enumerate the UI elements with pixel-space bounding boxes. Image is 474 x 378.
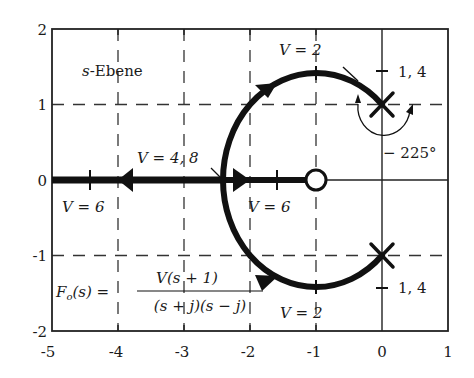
svg-text:0: 0	[37, 172, 47, 190]
upper-gain-label: V = 2	[279, 41, 321, 59]
angle-arrow-end-icon	[406, 104, 413, 115]
svg-text:-2: -2	[32, 323, 47, 341]
svg-text:1: 1	[37, 96, 47, 114]
svg-text:-1: -1	[32, 247, 47, 265]
breakaway-label: V = 4, 8	[137, 149, 199, 167]
transfer-function: Fo(s) = V(s + 1) (s + j)(s − j)	[55, 269, 263, 315]
x-tick-labels: -5 -4 -3 -2 -1 0 1	[41, 343, 453, 361]
departure-angle-label: − 225°	[383, 144, 436, 162]
svg-text:-4: -4	[109, 343, 124, 361]
tf-numerator: V(s + 1)	[156, 269, 218, 287]
locus-lower-branch	[223, 180, 382, 287]
tf-denominator: (s + j)(s − j)	[154, 297, 246, 315]
svg-text:-2: -2	[241, 343, 256, 361]
lower-pole-gain-label: 1, 4	[398, 279, 427, 297]
angle-arrow-start-icon	[355, 94, 361, 103]
zero-icon	[306, 170, 326, 190]
svg-text:-5: -5	[41, 343, 56, 361]
arrow-left-icon	[118, 168, 133, 192]
arrow-lower-icon	[255, 275, 278, 291]
svg-text:0: 0	[377, 343, 387, 361]
right-real-gain-label: V = 6	[248, 198, 291, 216]
svg-text:2: 2	[37, 21, 47, 39]
tf-lhs: Fo(s) =	[55, 283, 109, 302]
svg-text:-3: -3	[175, 343, 190, 361]
plane-label: s-Ebene	[82, 62, 143, 80]
breakaway-leader	[211, 168, 220, 177]
svg-text:-1: -1	[307, 343, 322, 361]
root-locus-plot: 2 1 0 -1 -2 -5 -4 -3 -2 -1 0 1 s-Ebene V…	[0, 0, 474, 378]
arrow-right-icon	[233, 168, 250, 192]
left-real-gain-label: V = 6	[62, 198, 105, 216]
upper-pole-gain-label: 1, 4	[398, 63, 427, 81]
svg-text:1: 1	[443, 343, 453, 361]
y-tick-labels: 2 1 0 -1 -2	[32, 21, 47, 341]
lower-gain-label: V = 2	[280, 304, 322, 322]
locus-upper-branch	[223, 73, 382, 180]
